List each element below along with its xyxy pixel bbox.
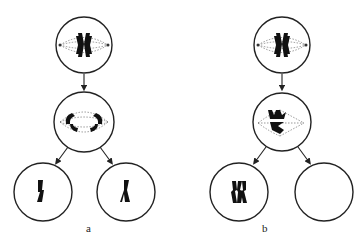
chromosome-pair-b-top xyxy=(274,33,290,57)
chromosomes-a-left-pole xyxy=(66,113,78,132)
arrow-a-left xyxy=(57,147,68,162)
cell-a-anaphase xyxy=(54,92,114,152)
cell-b-daughter-right-empty xyxy=(295,163,353,221)
cell-b-anaphase xyxy=(253,93,311,151)
meiosis-diagram: a xyxy=(0,0,361,239)
chromosome-pair-a-top xyxy=(76,33,92,57)
panel-label-a: a xyxy=(86,222,91,234)
arrow-b-right xyxy=(298,147,309,162)
cell-a-metaphase xyxy=(56,17,112,73)
chromosomes-b-one-pole xyxy=(268,110,286,134)
cell-b-daughter-left xyxy=(210,163,268,221)
spindle-b-top xyxy=(257,38,308,53)
panel-label-b: b xyxy=(262,222,268,234)
chromosomes-b-dl xyxy=(231,181,247,203)
panel-b: b xyxy=(210,17,353,234)
chromosome-a-dl xyxy=(37,180,44,202)
cell-b-metaphase xyxy=(254,17,310,73)
arrow-b-left xyxy=(255,147,266,162)
cell-a-daughter-right xyxy=(97,163,155,221)
chromosome-a-dr xyxy=(120,180,130,202)
arrow-a-right xyxy=(100,147,111,162)
spindle-a-top xyxy=(59,38,110,53)
cell-a-daughter-left xyxy=(14,163,72,221)
panel-a: a xyxy=(14,17,155,234)
